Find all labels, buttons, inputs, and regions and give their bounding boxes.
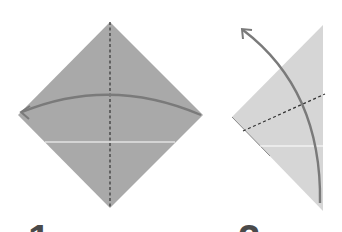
step-1-number: 1 [28, 219, 50, 232]
step-2-number: 2 [238, 219, 260, 232]
step-1-diagram [18, 22, 203, 208]
step-2-paper-triangle [232, 25, 323, 211]
step-2-diagram [232, 25, 325, 211]
origami-diagram [0, 0, 342, 232]
